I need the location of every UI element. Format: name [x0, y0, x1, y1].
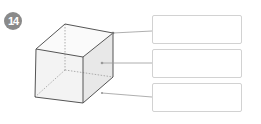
answer-box-face[interactable]	[152, 49, 242, 78]
answer-box-vertex[interactable]	[152, 15, 242, 44]
face-point-icon	[101, 62, 104, 65]
leader-edge	[102, 93, 152, 97]
cube-front-face	[35, 49, 83, 103]
leader-vertex	[113, 31, 152, 33]
edge-point-icon	[101, 92, 103, 94]
vertex-point-icon	[112, 32, 115, 35]
answer-box-edge[interactable]	[152, 83, 242, 112]
